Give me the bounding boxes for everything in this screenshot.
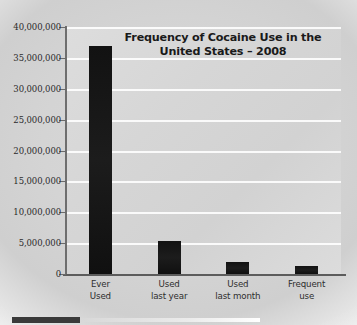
x-axis-tick-label-line: Used xyxy=(204,279,273,291)
x-axis-tick-label: Usedlast year xyxy=(135,279,204,302)
y-axis-tick-label: 30,000,000 xyxy=(13,84,61,94)
y-axis-tick-label: 5,000,000 xyxy=(19,238,61,248)
y-axis-tick-label: 20,000,000 xyxy=(13,146,61,156)
x-axis-tick-label: Usedlast month xyxy=(204,279,273,302)
x-axis-tick-label-line: use xyxy=(272,291,341,303)
y-axis-tick-label: 35,000,000 xyxy=(13,53,61,63)
y-axis-tick-label: 0 xyxy=(56,269,61,279)
x-axis-line xyxy=(63,274,346,276)
x-axis-tick-label-line: last month xyxy=(204,291,273,303)
footer-rule-tail xyxy=(80,318,260,322)
y-axis-tick-label: 40,000,000 xyxy=(13,22,61,32)
bar-used-last-month xyxy=(226,262,249,274)
bar-used-last-year xyxy=(158,241,181,274)
footer-rule xyxy=(12,317,80,323)
x-axis-tick-label: Frequentuse xyxy=(272,279,341,302)
bar-ever-used xyxy=(89,46,112,274)
chart-title: Frequency of Cocaine Use in the United S… xyxy=(112,31,334,59)
x-axis-tick-label-line: Frequent xyxy=(272,279,341,291)
x-axis-tick-label-line: Ever xyxy=(66,279,135,291)
chart-figure: Frequency of Cocaine Use in the United S… xyxy=(0,0,357,325)
x-axis-tick-label-line: Used xyxy=(135,279,204,291)
y-axis-tick-label: 10,000,000 xyxy=(13,207,61,217)
y-axis-tick-label: 15,000,000 xyxy=(13,176,61,186)
chart-title-line-2: United States – 2008 xyxy=(112,45,334,59)
gridline xyxy=(66,27,341,29)
x-axis-tick-label-line: last year xyxy=(135,291,204,303)
chart-title-line-1: Frequency of Cocaine Use in the xyxy=(112,31,334,45)
bar-frequent-use xyxy=(295,266,318,274)
x-axis-tick-label: EverUsed xyxy=(66,279,135,302)
x-axis-tick-label-line: Used xyxy=(66,291,135,303)
y-axis-tick-label: 25,000,000 xyxy=(13,115,61,125)
